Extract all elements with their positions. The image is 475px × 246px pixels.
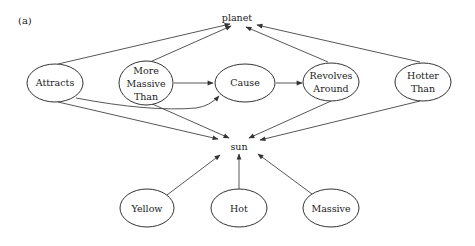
edges xyxy=(58,24,420,195)
edge-massive-sun xyxy=(258,154,312,194)
node-yellow: Yellow xyxy=(120,189,174,227)
edge-hotter-than-planet xyxy=(257,25,420,62)
node-hotter-than: Hotter Than xyxy=(395,63,451,101)
node-sun: sun xyxy=(230,141,247,152)
node-label: Than xyxy=(134,91,158,102)
node-more-massive-than: More Massive Than xyxy=(119,61,173,105)
node-label: More xyxy=(133,65,159,76)
node-label: Cause xyxy=(230,77,260,88)
node-planet: planet xyxy=(222,12,253,23)
node-label: Hotter xyxy=(407,70,439,81)
edge-hotter-than-sun xyxy=(260,101,420,140)
analogy-graph: (a) planet sun Attracts More Massive Tha… xyxy=(0,0,475,246)
panel-label: (a) xyxy=(18,15,32,26)
node-label: Than xyxy=(411,83,435,94)
node-label: Attracts xyxy=(35,77,75,88)
node-cause: Cause xyxy=(215,64,275,102)
node-hot: Hot xyxy=(211,189,267,227)
node-massive: Massive xyxy=(303,189,359,227)
edge-more-massive-than-planet xyxy=(150,26,231,62)
node-label: Around xyxy=(312,83,348,94)
edge-attracts-planet xyxy=(58,24,230,64)
edge-yellow-sun xyxy=(167,155,220,195)
node-attracts: Attracts xyxy=(27,64,83,102)
node-label: Massive xyxy=(126,78,166,89)
node-label: Yellow xyxy=(131,203,163,214)
node-label: Massive xyxy=(311,203,351,214)
node-revolves-around: Revolves Around xyxy=(303,63,359,101)
edge-attracts-sun xyxy=(58,102,218,139)
node-label: Revolves xyxy=(310,70,353,81)
node-label: Hot xyxy=(230,203,248,214)
